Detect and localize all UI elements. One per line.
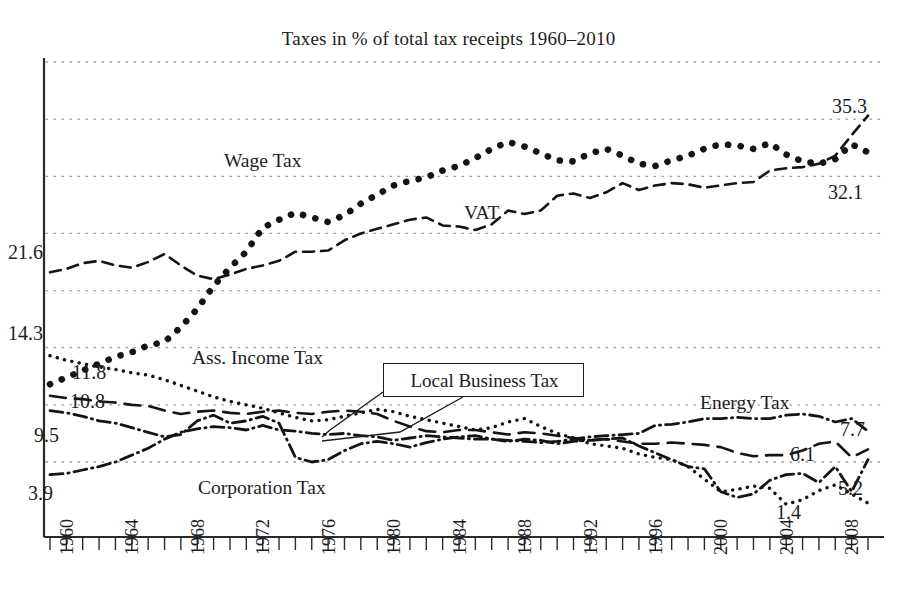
x-axis-tick-label: 1992 [581,519,602,555]
x-axis-tick-label: 1980 [384,519,405,555]
energy-tax-label: Energy Tax [700,392,789,414]
value-label-corporation-end: 5.2 [838,477,863,500]
local-business-tax-callout: Local Business Tax [383,363,584,397]
x-axis-tick-label: 2000 [711,519,732,555]
x-axis-tick-label: 1984 [450,519,471,555]
x-axis-tick-label: 1988 [515,519,536,555]
value-label-localbusiness-start: 10.8 [70,390,105,413]
series-vat [50,116,868,279]
value-label-energy-start: 3.9 [28,482,53,505]
series-energy-tax [50,414,868,475]
x-axis-tick-label: 1964 [122,519,143,555]
x-axis-tick-label: 1972 [253,519,274,555]
value-label-corporation-start: 9.5 [34,424,59,447]
local-business-tax-label: Local Business Tax [384,364,585,398]
x-axis-tick-label: 2004 [777,519,798,555]
value-label-energy-end: 7.7 [840,418,865,441]
x-axis-tick-label: 1960 [57,519,78,555]
x-axis-tick-label: 1976 [319,519,340,555]
value-label-wage-end: 32.1 [828,181,863,204]
wage-tax-label: Wage Tax [224,150,301,172]
value-label-vat-start: 21.6 [8,241,43,264]
x-axis-tick-label: 2008 [842,519,863,555]
series-group [50,116,868,505]
series-wage-tax [50,142,868,384]
corporation-tax-label: Corporation Tax [198,477,326,499]
x-axis-tick-label: 1968 [188,519,209,555]
value-label-assincome-start: 14.3 [8,322,43,345]
axes-group [44,58,884,537]
chart-figure: Taxes in % of total tax receipts 1960–20… [0,0,897,610]
vat-label: VAT [464,202,499,224]
value-label-localbusiness-end: 6.1 [790,443,815,466]
x-axis-tick-label: 1996 [646,519,667,555]
value-label-vat-end: 35.3 [832,95,867,118]
ass-income-tax-label: Ass. Income Tax [192,347,323,369]
value-label-wage-start: 11.8 [72,361,106,384]
